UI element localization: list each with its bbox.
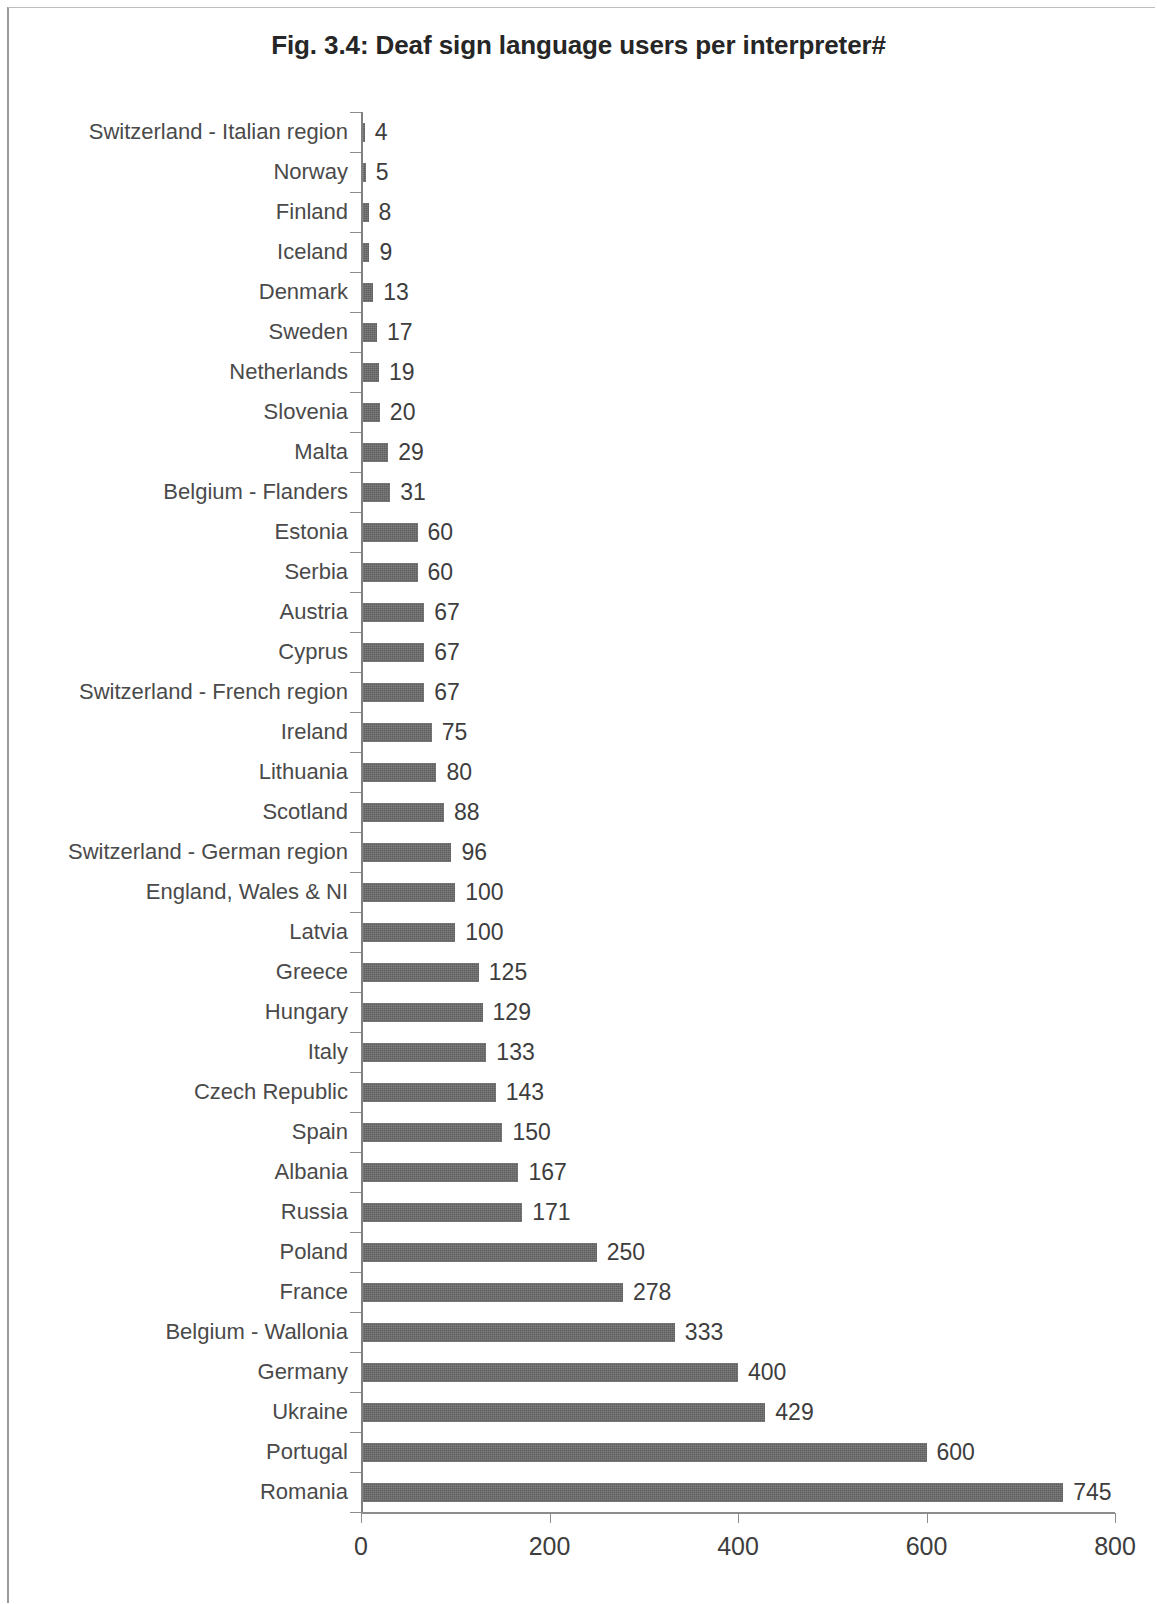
bar <box>361 1083 496 1102</box>
category-label: Hungary <box>265 992 361 1032</box>
bar <box>361 483 390 502</box>
chart-row: Latvia100 <box>0 912 1157 952</box>
chart-row: Norway5 <box>0 152 1157 192</box>
bar <box>361 1483 1063 1502</box>
y-axis-tick <box>350 1152 361 1153</box>
chart-rows: Switzerland - Italian region4Norway5Finl… <box>0 112 1157 1512</box>
y-axis-tick <box>350 1512 361 1513</box>
chart-row: Lithuania80 <box>0 752 1157 792</box>
bar <box>361 1243 597 1262</box>
category-label: Switzerland - French region <box>79 672 361 712</box>
bar <box>361 1203 522 1222</box>
chart-row: Czech Republic143 <box>0 1072 1157 1112</box>
bar-value-label: 250 <box>607 1232 645 1272</box>
bar <box>361 923 455 942</box>
category-label: Belgium - Wallonia <box>165 1312 361 1352</box>
chart-row: England, Wales & NI100 <box>0 872 1157 912</box>
bar-value-label: 167 <box>528 1152 566 1192</box>
bar-value-label: 278 <box>633 1272 671 1312</box>
bar <box>361 843 451 862</box>
y-axis-tick <box>350 792 361 793</box>
bar-value-label: 600 <box>937 1432 975 1472</box>
y-axis-tick <box>350 712 361 713</box>
x-axis-tick-label: 200 <box>529 1532 571 1561</box>
y-axis-tick <box>350 1472 361 1473</box>
chart-row: Portugal600 <box>0 1432 1157 1472</box>
y-axis-tick <box>350 432 361 433</box>
category-label: Scotland <box>262 792 361 832</box>
y-axis-tick <box>350 1232 361 1233</box>
category-label: Germany <box>258 1352 361 1392</box>
y-axis-tick <box>350 1352 361 1353</box>
category-label: Latvia <box>289 912 361 952</box>
bar <box>361 1443 927 1462</box>
bar-chart-plot-area: Switzerland - Italian region4Norway5Finl… <box>0 112 1157 1532</box>
chart-row: Belgium - Flanders31 <box>0 472 1157 512</box>
y-axis-tick <box>350 1392 361 1393</box>
x-axis-tick <box>738 1513 739 1523</box>
bar <box>361 1403 765 1422</box>
chart-row: Iceland9 <box>0 232 1157 272</box>
y-axis-tick <box>350 1072 361 1073</box>
bar-value-label: 129 <box>493 992 531 1032</box>
bar-value-label: 9 <box>379 232 392 272</box>
category-label: France <box>280 1272 361 1312</box>
bar-value-label: 20 <box>390 392 416 432</box>
x-axis-tick-label: 800 <box>1094 1532 1136 1561</box>
bar <box>361 643 424 662</box>
bar-value-label: 17 <box>387 312 413 352</box>
bar <box>361 683 424 702</box>
chart-row: Sweden17 <box>0 312 1157 352</box>
y-axis-tick <box>350 752 361 753</box>
y-axis-tick <box>350 152 361 153</box>
y-axis-tick <box>350 672 361 673</box>
bar-value-label: 143 <box>506 1072 544 1112</box>
chart-row: Poland250 <box>0 1232 1157 1272</box>
bar <box>361 803 444 822</box>
bar <box>361 363 379 382</box>
bar-value-label: 80 <box>446 752 472 792</box>
y-axis-tick <box>350 992 361 993</box>
chart-row: Netherlands19 <box>0 352 1157 392</box>
bar-value-label: 133 <box>496 1032 534 1072</box>
bar-value-label: 67 <box>434 672 460 712</box>
chart-row: Finland8 <box>0 192 1157 232</box>
bar-value-label: 67 <box>434 592 460 632</box>
chart-row: Estonia60 <box>0 512 1157 552</box>
bar-value-label: 96 <box>461 832 487 872</box>
bar <box>361 1323 675 1342</box>
chart-row: France278 <box>0 1272 1157 1312</box>
category-label: Cyprus <box>278 632 361 672</box>
chart-row: Switzerland - German region96 <box>0 832 1157 872</box>
y-axis-tick <box>350 832 361 833</box>
chart-row: Malta29 <box>0 432 1157 472</box>
chart-row: Albania167 <box>0 1152 1157 1192</box>
bar <box>361 1123 502 1142</box>
bar-value-label: 60 <box>428 512 454 552</box>
chart-row: Austria67 <box>0 592 1157 632</box>
x-axis-tick-label: 0 <box>354 1532 368 1561</box>
category-label: Poland <box>279 1232 361 1272</box>
y-axis-tick <box>350 1432 361 1433</box>
chart-row: Serbia60 <box>0 552 1157 592</box>
y-axis-tick <box>350 1192 361 1193</box>
y-axis-tick <box>350 512 361 513</box>
bar-value-label: 333 <box>685 1312 723 1352</box>
x-axis-tick-label: 400 <box>717 1532 759 1561</box>
category-label: Italy <box>308 1032 361 1072</box>
chart-row: Spain150 <box>0 1112 1157 1152</box>
bar-value-label: 60 <box>428 552 454 592</box>
category-label: Czech Republic <box>194 1072 361 1112</box>
y-axis-tick <box>350 1032 361 1033</box>
x-axis-tick <box>1115 1513 1116 1523</box>
y-axis-tick <box>350 272 361 273</box>
bar-value-label: 75 <box>442 712 468 752</box>
bar <box>361 1003 483 1022</box>
chart-row: Belgium - Wallonia333 <box>0 1312 1157 1352</box>
category-label: Iceland <box>277 232 361 272</box>
category-label: Switzerland - Italian region <box>89 112 361 152</box>
bar <box>361 603 424 622</box>
bar-value-label: 429 <box>775 1392 813 1432</box>
y-axis-tick <box>350 592 361 593</box>
bar-value-label: 67 <box>434 632 460 672</box>
